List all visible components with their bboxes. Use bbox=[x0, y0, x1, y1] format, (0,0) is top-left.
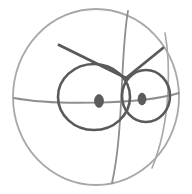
right-pupil-shape bbox=[138, 93, 146, 105]
meridian-curve-shape bbox=[112, 11, 128, 183]
left-pupil-shape bbox=[95, 95, 104, 108]
drawing-canvas bbox=[0, 0, 192, 194]
angry-face-sphere-sketch bbox=[0, 0, 192, 194]
